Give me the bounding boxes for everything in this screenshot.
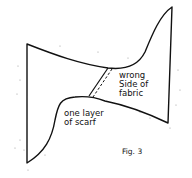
figure-caption: Fig. 3 xyxy=(122,148,142,156)
scarf-outline xyxy=(27,7,172,163)
wrong-side-label: wrong Side of fabric xyxy=(119,71,148,98)
fold-line xyxy=(89,68,108,96)
scarf-diagram xyxy=(0,0,192,178)
label-line: of scarf xyxy=(64,118,104,127)
one-layer-label: one layer of scarf xyxy=(64,109,104,127)
stitch-line-dashed xyxy=(93,69,112,97)
label-line: fabric xyxy=(119,89,148,98)
